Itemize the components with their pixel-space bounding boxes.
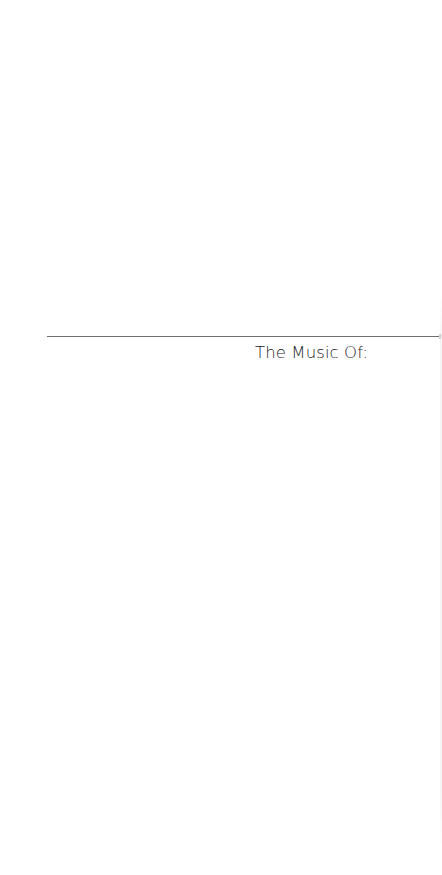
section-heading: The Music Of:	[255, 343, 368, 363]
horizontal-divider	[47, 336, 440, 337]
document-page: The Music Of:	[0, 0, 442, 875]
